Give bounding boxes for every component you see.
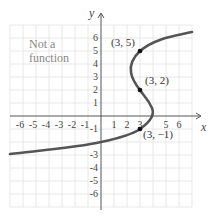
svg-text:function: function [29, 51, 69, 65]
svg-text:-5: -5 [90, 175, 98, 186]
graph: x y -6 -5 -4 -3 -2 -1 1 2 3 5 6 6 5 4 3 … [0, 0, 213, 218]
svg-text:-5: -5 [29, 119, 37, 130]
svg-text:-6: -6 [16, 119, 24, 130]
svg-text:Not a: Not a [29, 37, 56, 51]
svg-text:1: 1 [112, 119, 117, 130]
point-label-3-5: (3, 5) [111, 36, 135, 49]
svg-text:3: 3 [93, 71, 98, 82]
svg-text:-1: -1 [90, 123, 98, 134]
svg-text:6: 6 [93, 32, 98, 43]
svg-text:5: 5 [93, 45, 98, 56]
y-axis-label: y [88, 6, 95, 20]
svg-text:-6: -6 [90, 188, 98, 199]
point-label-3-neg1: (3, −1) [143, 128, 173, 141]
annotation-not-a-function: Not a function [29, 37, 69, 65]
svg-text:-3: -3 [55, 119, 63, 130]
svg-text:-2: -2 [68, 119, 76, 130]
svg-text:-3: -3 [90, 149, 98, 160]
svg-text:1: 1 [93, 97, 98, 108]
point-3-neg1 [138, 127, 143, 132]
svg-text:-1: -1 [81, 119, 89, 130]
svg-text:2: 2 [125, 119, 130, 130]
point-label-3-2: (3, 2) [145, 74, 169, 87]
x-axis-label: x [200, 120, 207, 134]
point-3-2 [138, 88, 143, 93]
svg-text:-4: -4 [42, 119, 50, 130]
svg-text:6: 6 [177, 119, 182, 130]
svg-text:4: 4 [93, 58, 98, 69]
svg-text:-4: -4 [90, 162, 98, 173]
point-3-5 [138, 49, 143, 54]
svg-text:2: 2 [93, 84, 98, 95]
